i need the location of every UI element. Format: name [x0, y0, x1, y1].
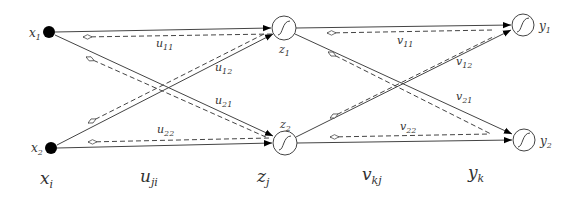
- output-label-y1: y1: [538, 19, 551, 35]
- input-node-x1: [43, 26, 55, 38]
- layer-label-z: zj: [256, 166, 270, 189]
- hidden-label-z1: z1: [278, 43, 290, 58]
- weight-u22: u22: [157, 123, 174, 138]
- back-z2-x1: [86, 57, 268, 138]
- output-node-y1: [512, 14, 534, 36]
- back-z1-x1: [83, 34, 272, 37]
- layer-label-u: uji: [140, 166, 158, 189]
- weight-v12: v12: [456, 55, 472, 70]
- weight-u21: u21: [215, 94, 232, 109]
- layer-label-y: yk: [467, 162, 485, 185]
- neural-network-diagram: x1 x2 z1 z2 y1 y2 u11 u12 u21 u22 v11 v1…: [0, 0, 578, 198]
- weight-v21: v21: [456, 90, 472, 105]
- edge-z1-y1: [296, 25, 511, 28]
- weight-u12: u12: [215, 61, 232, 76]
- edge-x2-z2: [57, 143, 272, 148]
- input-label-x2: x2: [31, 141, 43, 157]
- back-z2-x2: [88, 138, 270, 142]
- back-y1-z1: [327, 30, 493, 33]
- hidden-node-z1: [272, 16, 296, 40]
- layer-label-x: xi: [40, 168, 53, 191]
- hidden-node-z2: [273, 131, 297, 155]
- weight-v11: v11: [397, 34, 413, 49]
- input-label-x1: x1: [29, 26, 41, 42]
- weight-labels-v: v11 v12 v21 v22: [397, 34, 472, 135]
- layer-label-v: vkj: [362, 164, 382, 187]
- edge-z2-y2: [297, 140, 512, 143]
- hidden-layer: z1 z2: [272, 16, 297, 155]
- weight-v22: v22: [400, 120, 416, 135]
- back-z1-x2: [88, 33, 266, 123]
- input-layer: x1 x2: [29, 26, 57, 157]
- hidden-label-z2: z2: [279, 118, 291, 133]
- output-layer: y1 y2: [512, 14, 552, 151]
- edge-x1-z1: [55, 28, 271, 32]
- input-node-x2: [45, 142, 57, 154]
- layer-labels: xi uji zj vkj yk: [40, 162, 485, 191]
- output-label-y2: y2: [539, 134, 552, 150]
- output-node-y2: [513, 129, 535, 151]
- weight-u11: u11: [156, 37, 173, 52]
